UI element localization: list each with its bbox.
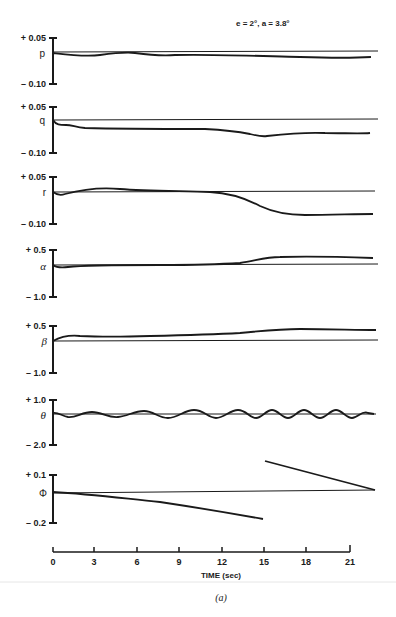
phi-reference-line bbox=[53, 490, 375, 493]
p-label: p bbox=[39, 48, 45, 59]
figure-caption: (a) bbox=[215, 592, 227, 604]
q-bottom-tick: – 0.10 bbox=[21, 148, 46, 158]
alpha-top-tick: + 0.5 bbox=[26, 245, 46, 255]
x-tick-6: 6 bbox=[134, 557, 139, 567]
x-tick-18: 18 bbox=[301, 557, 311, 567]
phi-bottom-tick: – 0.2 bbox=[26, 518, 46, 528]
beta-bottom-tick: – 1.0 bbox=[26, 368, 46, 378]
x-tick-0: 0 bbox=[50, 557, 55, 567]
beta-top-tick: + 0.5 bbox=[26, 321, 46, 331]
theta-top-tick: + 1.0 bbox=[26, 395, 46, 405]
phi-top-tick: + 0.1 bbox=[26, 470, 46, 480]
phi-label: Φ bbox=[39, 488, 47, 499]
p-reference-line bbox=[53, 51, 378, 52]
q-reference-line bbox=[53, 119, 378, 120]
phi-curve-upper bbox=[265, 461, 375, 490]
x-tick-3: 3 bbox=[91, 557, 96, 567]
x-tick-12: 12 bbox=[217, 557, 227, 567]
x-axis-label: TIME (sec) bbox=[201, 571, 241, 580]
panel-theta: + 1.0 – 2.0 θ bbox=[26, 395, 376, 450]
alpha-label: α bbox=[40, 260, 46, 272]
panel-q: + 0.05 – 0.10 q bbox=[21, 102, 378, 158]
panel-alpha: + 0.5 – 1.0 α bbox=[26, 245, 378, 302]
r-bottom-tick: – 0.10 bbox=[21, 219, 46, 229]
beta-label: β bbox=[41, 335, 48, 347]
theta-bottom-tick: – 2.0 bbox=[26, 440, 46, 450]
panel-r: + 0.05 – 0.10 r bbox=[21, 172, 375, 229]
beta-curve bbox=[53, 329, 376, 341]
panel-phi: + 0.1 – 0.2 Φ bbox=[26, 461, 375, 528]
p-bottom-tick: – 0.10 bbox=[21, 79, 46, 89]
q-top-tick: + 0.05 bbox=[21, 102, 46, 112]
p-curve bbox=[53, 53, 371, 58]
q-curve bbox=[53, 120, 370, 136]
figure-title: e = 2°, a = 3.8° bbox=[236, 19, 290, 28]
p-top-tick: + 0.05 bbox=[21, 33, 46, 43]
phi-curve-lower bbox=[53, 492, 263, 519]
x-tick-21: 21 bbox=[345, 557, 355, 567]
x-tick-15: 15 bbox=[259, 557, 269, 567]
panel-p: + 0.05 – 0.10 p bbox=[21, 33, 378, 89]
r-top-tick: + 0.05 bbox=[21, 172, 46, 182]
r-label: r bbox=[43, 187, 47, 198]
q-label: q bbox=[39, 115, 45, 126]
alpha-curve bbox=[53, 257, 373, 268]
alpha-bottom-tick: – 1.0 bbox=[26, 292, 46, 302]
time-history-figure: e = 2°, a = 3.8° + 0.05 – 0.10 p + 0.05 … bbox=[0, 0, 396, 617]
theta-label: θ bbox=[41, 409, 47, 421]
x-tick-9: 9 bbox=[176, 557, 181, 567]
r-curve bbox=[53, 188, 373, 215]
time-axis: 0 3 6 9 12 15 18 21 TIME (sec) bbox=[50, 545, 355, 580]
beta-reference-line bbox=[53, 340, 378, 341]
panel-beta: + 0.5 – 1.0 β bbox=[26, 321, 378, 378]
